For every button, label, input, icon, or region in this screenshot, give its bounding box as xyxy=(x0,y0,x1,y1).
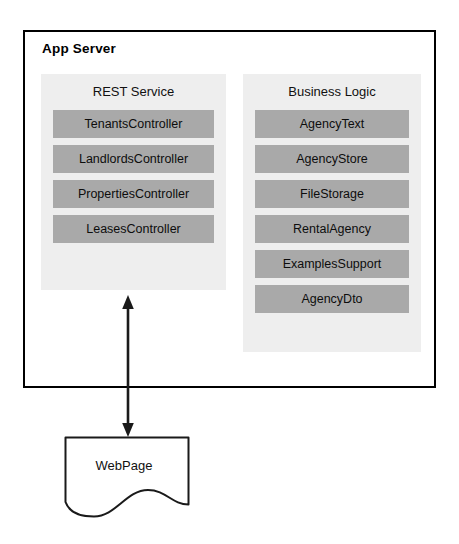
connector-rest-to-webpage xyxy=(108,292,150,440)
group-business-logic: Business Logic AgencyText AgencyStore Fi… xyxy=(243,74,421,352)
component-box[interactable]: FileStorage xyxy=(255,180,409,208)
group-rest-service: REST Service TenantsController Landlords… xyxy=(41,74,226,290)
double-headed-arrow-icon xyxy=(108,292,150,440)
diagram-canvas: App Server REST Service TenantsControlle… xyxy=(0,0,459,544)
component-box[interactable]: ExamplesSupport xyxy=(255,250,409,278)
component-box[interactable]: LandlordsController xyxy=(53,145,214,173)
webpage-node[interactable]: WebPage xyxy=(60,432,196,524)
component-box[interactable]: AgencyDto xyxy=(255,285,409,313)
component-box[interactable]: PropertiesController xyxy=(53,180,214,208)
component-list-rest-service: TenantsController LandlordsController Pr… xyxy=(53,110,214,250)
component-box[interactable]: AgencyStore xyxy=(255,145,409,173)
component-box[interactable]: TenantsController xyxy=(53,110,214,138)
app-server-title: App Server xyxy=(42,41,116,56)
group-title-rest-service: REST Service xyxy=(41,84,226,99)
document-shape-icon xyxy=(60,432,196,524)
webpage-label: WebPage xyxy=(60,458,188,473)
component-box[interactable]: RentalAgency xyxy=(255,215,409,243)
component-box[interactable]: LeasesController xyxy=(53,215,214,243)
component-box[interactable]: AgencyText xyxy=(255,110,409,138)
group-title-business-logic: Business Logic xyxy=(243,84,421,99)
component-list-business-logic: AgencyText AgencyStore FileStorage Renta… xyxy=(255,110,409,320)
